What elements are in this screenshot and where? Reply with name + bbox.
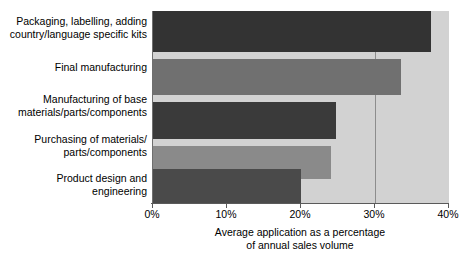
category-label: Packaging, labelling, adding country/lan… <box>0 15 147 40</box>
x-tick-label: 10% <box>206 208 246 221</box>
bar-manufacturing-base-materials <box>153 102 336 139</box>
category-label: Purchasing of materials/ parts/component… <box>0 133 147 158</box>
x-tick-label: 0% <box>132 208 172 221</box>
x-tick-label: 40% <box>428 208 468 221</box>
category-label: Manufacturing of base materials/parts/co… <box>0 93 147 118</box>
x-tick-label: 30% <box>354 208 394 221</box>
bar-product-design-engineering <box>153 169 301 203</box>
category-label: Final manufacturing <box>0 61 147 74</box>
category-labels: Packaging, labelling, adding country/lan… <box>0 11 147 203</box>
bar-chart: Packaging, labelling, adding country/lan… <box>0 0 468 261</box>
category-label: Product design and engineering <box>0 172 147 197</box>
x-axis-title: Average application as a percentage of a… <box>152 226 448 251</box>
x-tick-label: 20% <box>280 208 320 221</box>
bar-packaging-labelling <box>153 11 431 52</box>
plot-area <box>152 11 449 203</box>
bar-final-manufacturing <box>153 59 401 95</box>
